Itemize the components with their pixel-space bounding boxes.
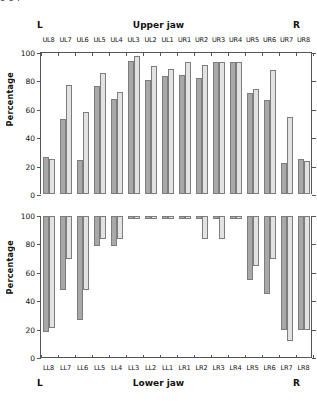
lower-bar-slot-lr6 [261,216,278,357]
lower-tooth-label-ll1: LL1 [159,362,176,374]
upper-tooth-label-ur2: UR2 [193,34,210,46]
lower-bar-lr7-series-b [287,216,293,341]
lower-bar-ll7-series-b [66,216,72,259]
upper-y-tick-label-20: 20 [25,162,35,171]
lower-y-tick-0 [37,358,41,359]
lower-tooth-label-ll7: LL7 [57,362,74,374]
lower-bar-ll1-series-b [168,216,174,219]
lower-x-tick-8 [177,355,178,358]
upper-bar-ul1-series-b [168,69,174,194]
lower-y-tick-label-0: 0 [30,354,35,363]
upper-tooth-label-ur5: UR5 [244,34,261,46]
upper-bar-slot-ur8 [295,53,312,194]
lower-right-side-marker: R [293,378,300,388]
upper-bar-ur6-series-b [270,70,276,194]
lower-bar-slot-lr8 [295,216,312,357]
upper-x-tick-15 [296,53,297,56]
upper-bar-slot-ur6 [261,53,278,194]
upper-tooth-label-ul1: UL1 [159,34,176,46]
clipped-top-text-label: g g p [0,0,23,1]
upper-bar-ul7-series-b [66,85,72,194]
lower-y-tick-20 [37,330,41,331]
upper-y-tick-40 [37,138,41,139]
upper-bar-slot-ur2 [193,53,210,194]
upper-bar-ul3-series-b [134,56,140,194]
lower-x-tick-9 [194,355,195,358]
lower-x-tick-12 [245,355,246,358]
lower-bar-slot-lr4 [227,216,244,357]
lower-bar-lr5-series-b [253,216,259,266]
upper-y-tick-label-80: 80 [25,77,35,86]
lower-bar-slot-lr5 [244,216,261,357]
lower-bar-ll3-series-b [134,216,140,219]
upper-bar-slot-ur3 [210,53,227,194]
upper-tooth-label-ur7: UR7 [278,34,295,46]
upper-bar-ul6-series-b [83,112,89,194]
lower-x-tick-14 [279,355,280,358]
lower-tooth-label-ll6: LL6 [74,362,91,374]
upper-x-tick-13 [262,53,263,56]
lower-bar-slot-ll2 [143,216,160,357]
upper-x-tick-16 [313,53,314,56]
lower-bar-ll6-series-b [83,216,89,290]
lower-tooth-label-ll4: LL4 [108,362,125,374]
lower-bar-lr4-series-b [236,216,242,219]
lower-x-tick-0 [41,355,42,358]
lower-bar-group [41,216,312,357]
upper-y-tick-60 [37,110,41,111]
lower-x-tick-4 [109,355,110,358]
lower-tooth-label-lr6: LR6 [261,362,278,374]
lower-y-tick-right-0 [312,358,316,359]
upper-jaw-plot-area: 020406080100 [40,52,312,194]
upper-bar-slot-ul1 [160,53,177,194]
upper-bar-ur3-series-b [219,62,225,194]
upper-x-tick-14 [279,53,280,56]
upper-left-side-marker: L [37,20,43,30]
lower-x-tick-5 [126,355,127,358]
lower-tooth-label-lr8: LR8 [295,362,312,374]
upper-x-tick-12 [245,53,246,56]
upper-bar-ul5-series-b [100,73,106,194]
lower-bar-slot-ll8 [41,216,58,357]
lower-tooth-label-lr3: LR3 [210,362,227,374]
upper-tooth-label-ul6: UL6 [74,34,91,46]
lower-bar-ll8-series-b [49,216,55,328]
lower-jaw-chart: 020406080100 LL8LL7LL6LL5LL4LL3LL2LL1LR1… [0,200,317,401]
upper-y-tick-right-0 [312,195,316,196]
upper-bar-slot-ul5 [92,53,109,194]
upper-bar-slot-ul8 [41,53,58,194]
lower-tooth-label-ll2: LL2 [142,362,159,374]
upper-tooth-label-ul3: UL3 [125,34,142,46]
upper-right-side-marker: R [293,20,300,30]
lower-bar-ll4-series-b [117,216,123,239]
upper-bar-ul8-series-b [49,159,55,195]
lower-tooth-label-lr7: LR7 [278,362,295,374]
upper-bar-ur2-series-b [202,65,208,194]
lower-y-tick-label-80: 80 [25,240,35,249]
upper-tooth-label-ul4: UL4 [108,34,125,46]
lower-x-tick-13 [262,355,263,358]
upper-bar-slot-ul3 [126,53,143,194]
upper-bar-ur1-series-b [185,62,191,194]
lower-x-tick-2 [75,355,76,358]
upper-y-tick-label-100: 100 [21,49,35,58]
upper-tooth-label-ul5: UL5 [91,34,108,46]
upper-bar-ur5-series-b [253,89,259,194]
lower-y-tick-80 [37,244,41,245]
lower-y-tick-right-40 [312,301,316,302]
upper-tooth-label-ur8: UR8 [295,34,312,46]
lower-tooth-label-ll3: LL3 [125,362,142,374]
lower-y-tick-right-60 [312,273,316,274]
lower-y-tick-right-100 [312,216,316,217]
lower-bar-slot-ll6 [75,216,92,357]
lower-bar-ll5-series-b [100,216,106,239]
upper-jaw-chart: Upper jaw L R UL8UL7UL6UL5UL4UL3UL2UL1UR… [0,8,317,198]
upper-bar-slot-ul6 [75,53,92,194]
upper-bar-ul4-series-b [117,92,123,194]
upper-tooth-label-ul8: UL8 [40,34,57,46]
lower-tooth-label-row: LL8LL7LL6LL5LL4LL3LL2LL1LR1LR2LR3LR4LR5L… [40,362,312,374]
upper-tooth-label-ul7: UL7 [57,34,74,46]
upper-bar-slot-ur4 [227,53,244,194]
upper-bar-slot-ur5 [244,53,261,194]
upper-bar-ur7-series-b [287,117,293,194]
